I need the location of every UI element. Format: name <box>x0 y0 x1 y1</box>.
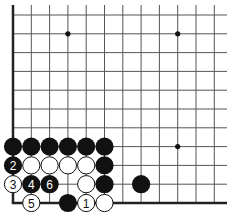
white-stone-icon <box>96 194 113 211</box>
move-number: 2 <box>10 159 17 173</box>
black-stone-icon <box>59 194 77 212</box>
white-stone <box>96 194 113 211</box>
white-stone-icon <box>23 157 40 174</box>
black-stone-icon <box>132 175 150 193</box>
black-stone-icon <box>95 156 113 174</box>
move-number: 3 <box>10 178 17 192</box>
white-stone <box>78 176 95 193</box>
black-stone <box>22 138 40 156</box>
star-point-icon <box>175 144 180 149</box>
white-stone <box>41 157 58 174</box>
black-stone: 6 <box>41 175 59 193</box>
black-stone-icon <box>4 138 22 156</box>
move-number: 6 <box>46 178 53 192</box>
white-stone <box>23 157 40 174</box>
star-point-icon <box>175 31 180 36</box>
black-stone-icon <box>41 138 59 156</box>
black-stone-icon <box>59 138 77 156</box>
black-stone-icon <box>77 138 95 156</box>
black-stone <box>132 175 150 193</box>
white-stone: 1 <box>78 194 95 211</box>
white-stone-icon <box>59 157 76 174</box>
go-board: 234651 <box>0 0 231 219</box>
move-number: 5 <box>28 197 35 211</box>
black-stone <box>59 194 77 212</box>
grid-lines <box>12 5 227 203</box>
white-stone <box>78 157 95 174</box>
move-number: 4 <box>28 178 35 192</box>
white-stone-icon <box>41 157 58 174</box>
black-stone-icon <box>95 138 113 156</box>
white-stone-icon <box>78 176 95 193</box>
white-stone-icon <box>78 157 95 174</box>
black-stone <box>41 138 59 156</box>
black-stone: 4 <box>22 175 40 193</box>
white-stone <box>59 157 76 174</box>
black-stone <box>77 138 95 156</box>
black-stone <box>59 138 77 156</box>
white-stone: 3 <box>4 176 21 193</box>
black-stone <box>95 138 113 156</box>
move-number: 1 <box>83 197 90 211</box>
black-stone: 2 <box>4 156 22 174</box>
black-stone-icon <box>95 175 113 193</box>
black-stone <box>95 156 113 174</box>
black-stone-icon <box>22 138 40 156</box>
black-stone <box>4 138 22 156</box>
stones: 234651 <box>4 138 150 213</box>
black-stone <box>95 175 113 193</box>
white-stone: 5 <box>23 194 40 211</box>
star-point-icon <box>65 31 70 36</box>
